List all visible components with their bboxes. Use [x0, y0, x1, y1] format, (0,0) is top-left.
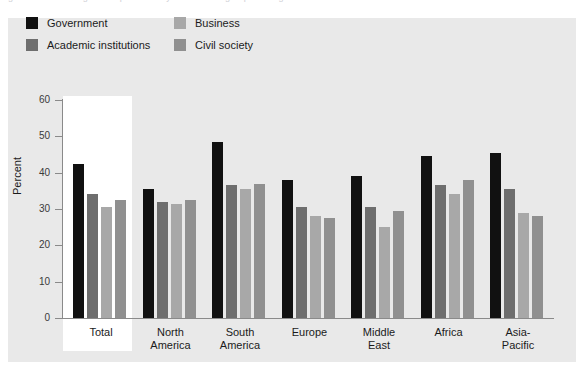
bar [115, 200, 126, 318]
legend-item-civil-society: Civil society [174, 38, 253, 52]
legend-label-civil-society: Civil society [195, 40, 253, 51]
bar [101, 207, 112, 318]
x-axis-label-line2: Pacific [475, 339, 561, 352]
bar [226, 185, 237, 318]
y-tick-30 [55, 209, 62, 210]
chart-screenshot: Figure 3.2 Percentage of respondents by … [0, 0, 584, 372]
y-tick-label-0: 0 [10, 313, 50, 323]
bar-group [73, 100, 129, 318]
x-axis-label-line2: East [336, 339, 422, 352]
y-tick-label-40: 40 [10, 168, 50, 178]
legend-item-government: Government [26, 16, 108, 30]
bar [296, 207, 307, 318]
bar [282, 180, 293, 318]
bar [379, 227, 390, 318]
y-tick-label-60: 60 [10, 95, 50, 105]
bar [157, 202, 168, 318]
bar [365, 207, 376, 318]
bar [73, 164, 84, 318]
legend-swatch-academic-institutions [26, 39, 38, 51]
y-tick-10 [55, 282, 62, 283]
bar-group [212, 100, 268, 318]
y-tick-50 [55, 136, 62, 137]
legend-item-business: Business [174, 16, 240, 30]
bar-group [351, 100, 407, 318]
y-tick-60 [55, 100, 62, 101]
bar [240, 189, 251, 318]
bar [449, 194, 460, 318]
figure-title-cutoff: Figure 3.2 Percentage of respondents by … [0, 0, 584, 4]
x-axis-label: Asia-Pacific [475, 326, 561, 352]
bar-group [282, 100, 338, 318]
bar [212, 142, 223, 318]
bar-group [490, 100, 546, 318]
x-axis-label-line1: Asia- [475, 326, 561, 339]
bar [87, 194, 98, 318]
bar [504, 189, 515, 318]
y-tick-40 [55, 173, 62, 174]
bar [435, 185, 446, 318]
y-axis-line [62, 99, 63, 319]
x-axis-line [62, 318, 554, 319]
legend-label-business: Business [195, 18, 240, 29]
y-tick-20 [55, 245, 62, 246]
legend-swatch-civil-society [174, 39, 186, 51]
bar [421, 156, 432, 318]
legend-label-government: Government [47, 18, 108, 29]
x-axis-label-line2: America [197, 339, 283, 352]
bar [532, 216, 543, 318]
bar [393, 211, 404, 318]
legend-swatch-business [174, 17, 186, 29]
legend-item-academic-institutions: Academic institutions [26, 38, 150, 52]
bar [254, 184, 265, 318]
bar [463, 180, 474, 318]
bar-group [143, 100, 199, 318]
bar-group [421, 100, 477, 318]
bar [490, 153, 501, 318]
bar [310, 216, 321, 318]
bar [518, 213, 529, 318]
y-tick-label-50: 50 [10, 131, 50, 141]
y-tick-label-30: 30 [10, 204, 50, 214]
y-tick-label-10: 10 [10, 277, 50, 287]
bar [324, 218, 335, 318]
bar [185, 200, 196, 318]
legend-label-academic-institutions: Academic institutions [47, 40, 150, 51]
bar [171, 204, 182, 318]
y-tick-label-20: 20 [10, 240, 50, 250]
chart-legend: Government Academic institutions Busines… [26, 16, 326, 60]
y-tick-0 [55, 318, 62, 319]
bar [143, 189, 154, 318]
bar [351, 176, 362, 318]
legend-swatch-government [26, 17, 38, 29]
